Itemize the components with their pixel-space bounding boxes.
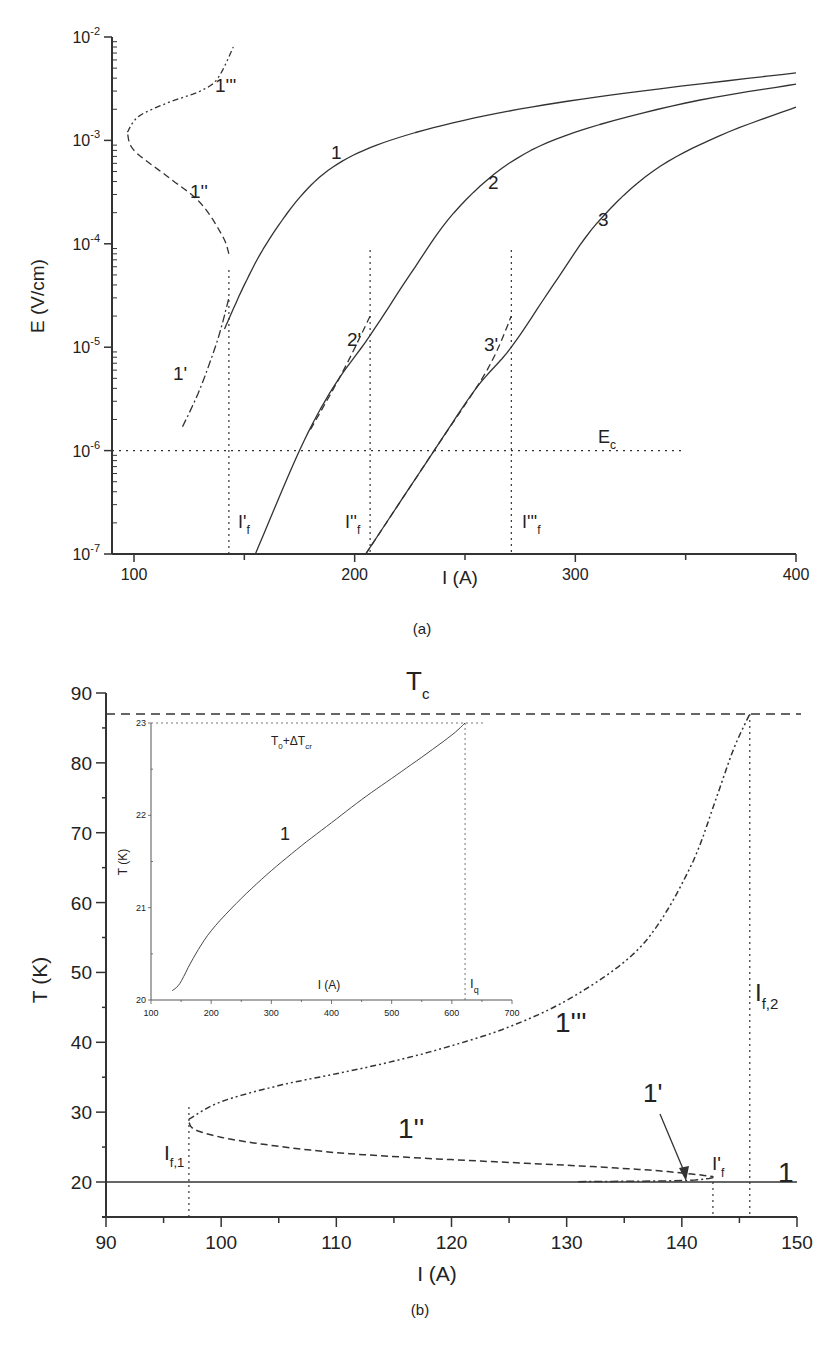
curve-label: 1 xyxy=(778,1157,794,1188)
y-tick-label: 20 xyxy=(71,1172,92,1193)
x-axis-label: I (A) xyxy=(417,1262,457,1285)
inset-x-tick-label: 600 xyxy=(444,1008,459,1018)
y-tick-label: 60 xyxy=(71,893,92,914)
x-tick-label: 200 xyxy=(341,566,368,583)
curve-label: 1''' xyxy=(555,1007,587,1038)
curve-label: 3' xyxy=(484,334,498,355)
series-1 xyxy=(225,73,797,329)
ec-label: Ec xyxy=(598,427,616,452)
inset-series-1 xyxy=(172,723,465,991)
ifprime-label: I'f xyxy=(712,1153,725,1180)
series-1p xyxy=(183,298,229,427)
inset-x-tick-label: 500 xyxy=(384,1008,399,1018)
inset-y-tick-label: 21 xyxy=(136,903,146,913)
y-tick-label: 80 xyxy=(71,753,92,774)
x-tick-label: 120 xyxy=(436,1232,468,1253)
curve-label: 1' xyxy=(173,363,187,384)
tc-label: Tc xyxy=(406,666,430,702)
panel-b-caption: (b) xyxy=(411,1301,429,1318)
inset-curve-label: 1 xyxy=(280,824,290,844)
inset-x-tick-label: 100 xyxy=(143,1008,158,1018)
panel-a-chart: 10-710-610-510-410-310-2100200300400I (A… xyxy=(27,25,809,637)
panel-b-chart: 203040506070809090100110120130140150I (A… xyxy=(28,666,813,1318)
y-tick-label: 90 xyxy=(71,683,92,704)
y-tick-label: 10-7 xyxy=(72,542,100,563)
if1-label: If,1 xyxy=(164,1141,184,1170)
series-3 xyxy=(366,107,796,554)
curve-label: 1' xyxy=(643,1078,662,1108)
inset-x-tick-label: 700 xyxy=(504,1008,519,1018)
inset-x-tick-label: 400 xyxy=(324,1008,339,1018)
x-tick-label: 100 xyxy=(205,1232,237,1253)
arrow-1p xyxy=(660,1114,686,1176)
curve-label: 1'' xyxy=(398,1113,424,1144)
series-1pp xyxy=(127,132,228,254)
panel-a-caption: (a) xyxy=(413,620,431,637)
inset-iq-label: Iq xyxy=(470,976,479,995)
curve-label: 1 xyxy=(331,142,342,163)
current-reference-label: I'''f xyxy=(522,512,541,537)
x-tick-label: 300 xyxy=(562,566,589,583)
series-1p xyxy=(578,1178,713,1182)
curve-label: 2 xyxy=(488,172,499,193)
y-tick-label: 10-5 xyxy=(72,335,100,356)
inset-chart: 20212223100200300400500600700I (A)T (K)T… xyxy=(116,718,520,1018)
curve-label: 3 xyxy=(598,209,609,230)
inset-y-tick-label: 22 xyxy=(136,810,146,820)
y-tick-label: 10-6 xyxy=(72,439,100,460)
inset-t0-dtcr-label: T0+ΔTcr xyxy=(271,734,312,751)
y-tick-label: 40 xyxy=(71,1032,92,1053)
inset-x-tick-label: 300 xyxy=(264,1008,279,1018)
inset-y-tick-label: 23 xyxy=(136,718,146,728)
y-tick-label: 50 xyxy=(71,962,92,983)
y-axis-label: T (K) xyxy=(28,957,51,1003)
current-reference-label: I'f xyxy=(238,512,250,537)
inset-x-tick-label: 200 xyxy=(204,1008,219,1018)
y-tick-label: 10-2 xyxy=(72,25,100,46)
series-1pp xyxy=(189,1123,713,1177)
inset-y-tick-label: 20 xyxy=(136,995,146,1005)
x-tick-label: 150 xyxy=(781,1232,813,1253)
current-reference-label: I''f xyxy=(345,512,361,537)
x-axis-label: I (A) xyxy=(442,567,478,588)
curve-label: 1'' xyxy=(190,181,208,202)
x-tick-label: 100 xyxy=(121,566,148,583)
y-axis-label: E (V/cm) xyxy=(27,259,48,333)
figure: 10-710-610-510-410-310-2100200300400I (A… xyxy=(0,0,839,1346)
x-tick-label: 140 xyxy=(666,1232,698,1253)
y-tick-label: 30 xyxy=(71,1102,92,1123)
y-tick-label: 70 xyxy=(71,823,92,844)
inset-x-axis-label: I (A) xyxy=(318,978,341,992)
y-tick-label: 10-4 xyxy=(72,232,100,253)
curve-label: 2' xyxy=(347,329,361,350)
y-tick-label: 10-3 xyxy=(72,128,100,149)
curve-label: 1''' xyxy=(215,75,236,96)
x-tick-label: 90 xyxy=(95,1232,116,1253)
x-tick-label: 400 xyxy=(783,566,810,583)
if2-label: If,2 xyxy=(755,979,778,1012)
x-tick-label: 110 xyxy=(321,1232,351,1253)
inset-y-axis-label: T (K) xyxy=(116,849,130,875)
x-tick-label: 130 xyxy=(551,1232,583,1253)
series-1ppp xyxy=(189,714,750,1119)
